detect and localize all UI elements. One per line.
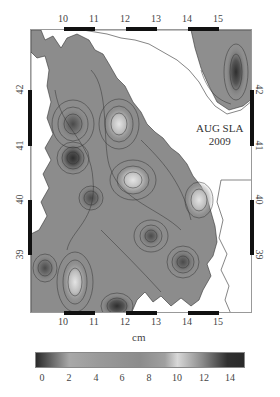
colorbar: [35, 352, 245, 368]
top-tick-label: 13: [151, 13, 161, 24]
map-year: 2009: [196, 135, 243, 148]
map-title-text: AUG SLA: [196, 122, 243, 135]
bottom-tick-label: 13: [151, 316, 161, 327]
scale-bar: [250, 200, 254, 255]
left-tick-label: 40: [14, 195, 25, 205]
colorbar-tick: 12: [194, 372, 214, 383]
eddy-low: [169, 248, 197, 276]
right-tick-label: 41: [254, 141, 265, 151]
bottom-tick-label: 10: [58, 316, 68, 327]
sla-contour-map: [31, 30, 252, 313]
scale-bar: [28, 200, 32, 255]
map-frame: [30, 29, 252, 313]
scale-bar: [126, 311, 157, 315]
eddy-high: [77, 184, 105, 212]
top-tick-label: 12: [120, 13, 130, 24]
scale-bar: [126, 27, 157, 31]
colorbar-tick: 10: [167, 372, 187, 383]
bottom-tick-label: 15: [213, 316, 223, 327]
bottom-tick-label: 14: [182, 316, 192, 327]
bottom-tick-label: 11: [89, 316, 99, 327]
bottom-tick-label: 12: [120, 316, 130, 327]
left-tick-label: 39: [14, 250, 25, 260]
right-tick-label: 40: [254, 195, 265, 205]
colorbar-tick: 8: [139, 372, 159, 383]
eddy-high: [115, 164, 151, 196]
colorbar-unit-label: cm: [132, 331, 145, 343]
right-tick-label: 39: [254, 250, 265, 260]
eddy-low: [59, 108, 87, 140]
scale-bar: [64, 311, 95, 315]
scale-bar: [28, 90, 32, 146]
colorbar-tick: 14: [220, 372, 240, 383]
land-east: [217, 180, 252, 313]
colorbar-tick: 2: [59, 372, 79, 383]
colorbar-tick: 0: [32, 372, 52, 383]
map-title: AUG SLA 2009: [196, 122, 243, 148]
top-tick-label: 15: [213, 13, 223, 24]
colorbar-tick: 6: [112, 372, 132, 383]
scale-bar: [250, 90, 254, 146]
right-tick-label: 42: [254, 85, 265, 95]
scale-bar: [188, 311, 219, 315]
top-tick-label: 11: [89, 13, 99, 24]
top-tick-label: 14: [182, 13, 192, 24]
eddy-low: [139, 224, 163, 248]
left-tick-label: 41: [14, 141, 25, 151]
top-tick-label: 10: [58, 13, 68, 24]
left-tick-label: 42: [14, 85, 25, 95]
scale-bar: [64, 27, 95, 31]
scale-bar: [188, 27, 219, 31]
colorbar-tick: 4: [86, 372, 106, 383]
